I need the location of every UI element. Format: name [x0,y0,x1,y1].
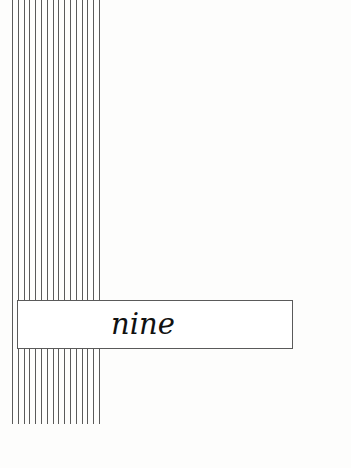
vertical-rules-decoration [0,0,110,468]
chapter-heading-box: nine [17,300,293,349]
vertical-rule-line [53,0,54,424]
vertical-rule-line [35,0,36,424]
vertical-rule-line [47,0,48,424]
vertical-rule-line [29,0,30,424]
vertical-rule-line [41,0,42,424]
vertical-rule-line [82,0,83,424]
vertical-rule-line [93,0,94,424]
vertical-rule-line [76,0,77,424]
vertical-rule-line [87,0,88,424]
vertical-rule-line [64,0,65,424]
vertical-rule-line [24,0,25,424]
vertical-rule-line [70,0,71,424]
vertical-rule-line [99,0,100,424]
vertical-rule-line [12,0,13,424]
vertical-rule-line [58,0,59,424]
vertical-rule-line [18,0,19,424]
chapter-title: nine [111,304,175,344]
